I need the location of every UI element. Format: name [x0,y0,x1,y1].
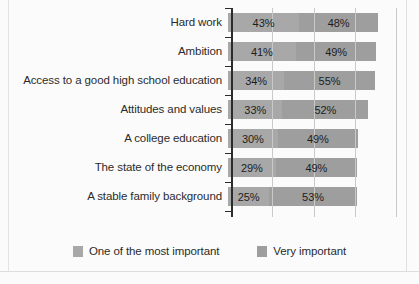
stacked-bar: 29%49% [228,158,357,177]
bar-row: Attitudes and values33%52% [0,95,419,124]
bar-row: Access to a good high school education34… [0,66,419,95]
bar-segment: 30% [228,129,278,148]
stacked-bar: 33%52% [228,100,368,119]
category-label: Attitudes and values [0,103,228,116]
gridline [355,8,356,217]
bar-value-label: 49% [325,46,347,58]
category-label: A stable family background [0,190,228,203]
category-label: A college education [0,132,228,145]
category-label: The state of the economy [0,161,228,174]
bar-value-label: 29% [241,162,263,174]
bar-container: 29%49% [228,153,419,182]
bar-row: A college education30%49% [0,124,419,153]
frame-border-bottom [0,271,419,272]
category-label: Ambition [0,45,228,58]
bar-container: 30%49% [228,124,419,153]
bar-segment: 34% [228,71,284,90]
bar-rows: Hard work43%48%Ambition41%49%Access to a… [0,8,419,211]
bar-segment: 41% [228,42,296,61]
stacked-bar: 34%55% [228,71,375,90]
bar-segment: 25% [228,187,269,206]
bar-value-label: 55% [319,75,341,87]
bar-segment: 43% [228,13,299,32]
bar-value-label: 30% [242,133,264,145]
category-label: Access to a good high school education [0,74,228,87]
stacked-bar: 25%53% [228,187,357,206]
chart-legend: One of the most importantVery important [0,245,419,257]
bar-segment: 49% [278,129,359,148]
legend-item[interactable]: Very important [257,245,346,257]
bar-segment: 49% [276,158,357,177]
bar-segment: 55% [284,71,375,90]
bar-value-label: 53% [302,191,324,203]
legend-label: One of the most important [89,245,219,257]
bar-segment: 33% [228,100,282,119]
bar-value-label: 48% [328,17,350,29]
bar-segment: 48% [299,13,378,32]
bar-row: Ambition41%49% [0,37,419,66]
gridline [272,8,273,217]
bar-segment: 29% [228,158,276,177]
gridline [396,8,397,217]
legend-item[interactable]: One of the most important [73,245,219,257]
y-axis-line [231,8,233,217]
bar-container: 33%52% [228,95,419,124]
stacked-bar: 30%49% [228,129,358,148]
bar-value-label: 34% [245,75,267,87]
plot-area: Hard work43%48%Ambition41%49%Access to a… [0,0,419,225]
legend-label: Very important [273,245,346,257]
category-label: Hard work [0,16,228,29]
bar-value-label: 25% [238,191,260,203]
bar-container: 41%49% [228,37,419,66]
legend-swatch-very-important [257,246,267,257]
bar-row: A stable family background25%53% [0,182,419,211]
bar-container: 43%48% [228,8,419,37]
legend-swatch-most-important [73,246,83,257]
bar-value-label: 41% [251,46,273,58]
bar-segment: 49% [296,42,377,61]
bar-container: 34%55% [228,66,419,95]
bar-value-label: 52% [314,104,336,116]
bar-value-label: 49% [307,133,329,145]
stacked-bar-chart: Hard work43%48%Ambition41%49%Access to a… [0,0,419,284]
bar-container: 25%53% [228,182,419,211]
bar-value-label: 33% [244,104,266,116]
bar-value-label: 49% [305,162,327,174]
bar-value-label: 43% [253,17,275,29]
bar-row: The state of the economy29%49% [0,153,419,182]
bar-row: Hard work43%48% [0,8,419,37]
